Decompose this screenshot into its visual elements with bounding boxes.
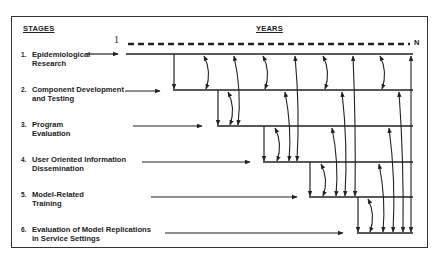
stage-timelines xyxy=(126,54,413,233)
flow-diagram xyxy=(0,0,438,262)
feedback-curves xyxy=(204,56,411,232)
progression-arrows xyxy=(174,54,358,232)
stage-entry-arrows xyxy=(87,54,343,233)
